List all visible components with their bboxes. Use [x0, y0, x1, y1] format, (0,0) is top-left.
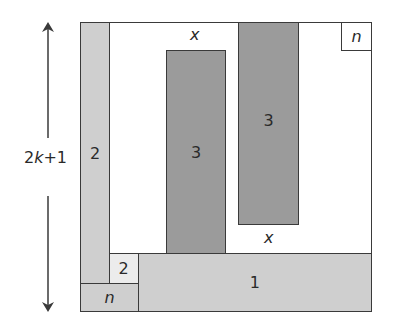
dimension-label: 2k+1 — [24, 150, 67, 166]
top-gap-label: x — [190, 27, 199, 43]
bottom-bar-region: 1 — [138, 253, 373, 312]
left-tall-bar-label: 3 — [191, 143, 201, 162]
left-tall-bar-region: 3 — [166, 50, 226, 254]
dimension-suffix: +1 — [43, 148, 67, 167]
left-strip-label: 2 — [90, 144, 100, 163]
bottom-left-label: n — [104, 288, 114, 307]
right-tall-bar-region: 3 — [238, 22, 299, 225]
bottom-left-region: n — [80, 283, 139, 313]
left-strip-region: 2 — [80, 22, 110, 284]
bottom-gap-label: x — [264, 230, 273, 246]
top-right-square-label: n — [351, 27, 361, 46]
small-square-region: 2 — [109, 253, 139, 284]
dimension-prefix: 2 — [24, 148, 34, 167]
right-tall-bar-label: 3 — [263, 111, 273, 130]
double-arrow-icon — [40, 20, 56, 314]
small-square-label: 2 — [118, 259, 128, 278]
bottom-bar-label: 1 — [250, 273, 260, 292]
top-right-square-region: n — [341, 22, 372, 51]
